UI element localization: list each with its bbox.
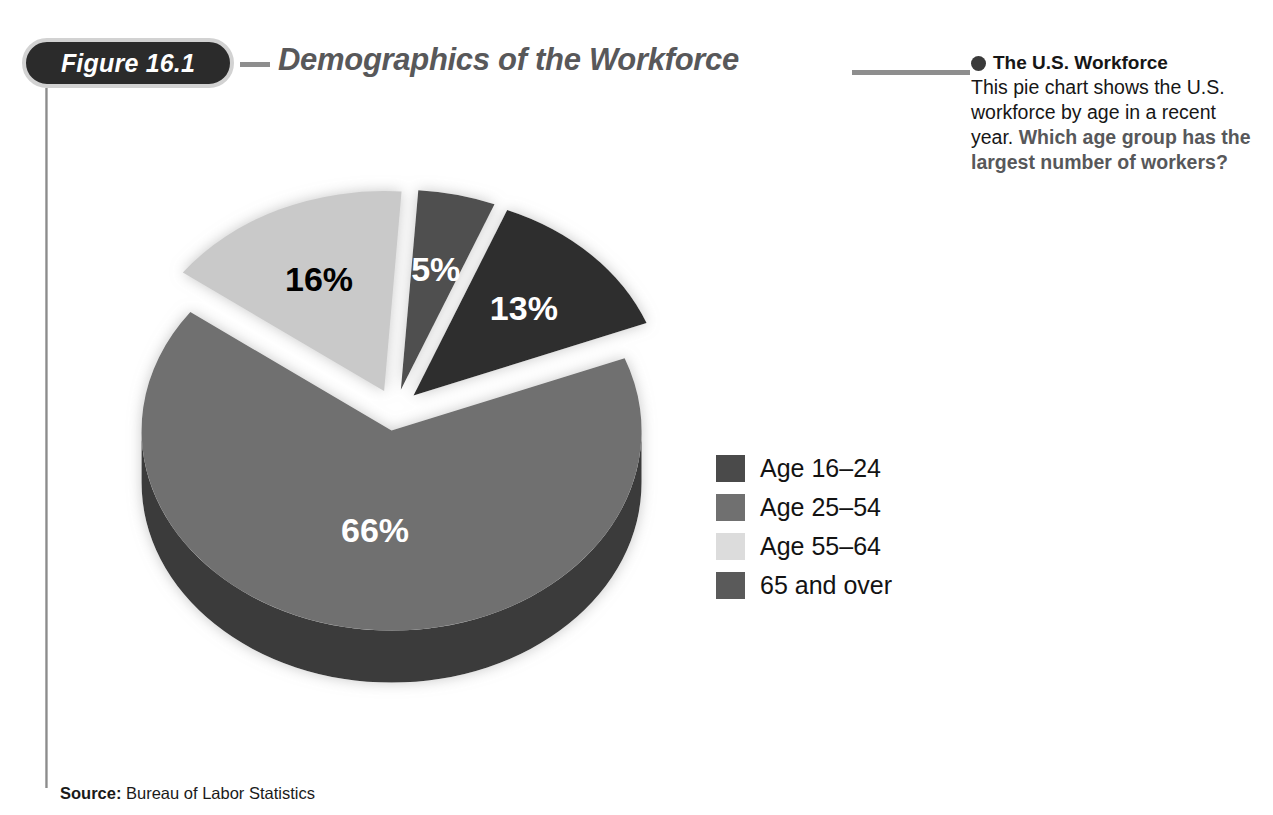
title-rule-right: [852, 70, 970, 75]
pie-chart: 13%66%16%5%: [95, 110, 755, 750]
pie-chart-svg: 13%66%16%5%: [95, 110, 755, 750]
legend-label: 65 and over: [760, 571, 892, 600]
chart-legend: Age 16–24Age 25–54Age 55–6465 and over: [716, 449, 892, 605]
source-text: Bureau of Labor Statistics: [121, 784, 315, 802]
figure-number-badge: Figure 16.1: [22, 38, 234, 88]
caption-heading: The U.S. Workforce: [993, 52, 1168, 74]
legend-item: Age 16–24: [716, 449, 892, 488]
legend-swatch-2: [716, 533, 745, 560]
caption-heading-row: The U.S. Workforce: [971, 52, 1263, 74]
caption-block: The U.S. Workforce This pie chart shows …: [971, 52, 1263, 175]
legend-item: Age 25–54: [716, 488, 892, 527]
figure-number-label: Figure 16.1: [61, 49, 195, 78]
left-vertical-rule: [45, 88, 48, 788]
legend-label: Age 16–24: [760, 454, 881, 483]
legend-item: 65 and over: [716, 566, 892, 605]
caption-body: This pie chart shows the U.S. workforce …: [971, 75, 1263, 175]
pie-slice-label-0: 13%: [490, 289, 558, 327]
legend-item: Age 55–64: [716, 527, 892, 566]
title-rule-left: [240, 62, 270, 67]
source-label: Source:: [60, 784, 121, 802]
pie-slice-label-2: 16%: [285, 260, 353, 298]
legend-label: Age 25–54: [760, 493, 881, 522]
filled-circle-icon: [971, 56, 986, 71]
legend-label: Age 55–64: [760, 532, 881, 561]
pie-slice-label-1: 66%: [341, 511, 409, 549]
page-title: Demographics of the Workforce: [278, 42, 739, 78]
pie-slice-label-3: 5%: [411, 250, 460, 288]
legend-swatch-0: [716, 455, 745, 482]
legend-swatch-3: [716, 572, 745, 599]
pie-slice-group: [142, 190, 647, 682]
source-line: Source: Bureau of Labor Statistics: [60, 784, 315, 803]
legend-swatch-1: [716, 494, 745, 521]
